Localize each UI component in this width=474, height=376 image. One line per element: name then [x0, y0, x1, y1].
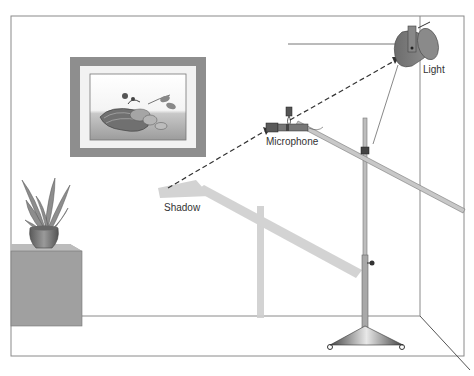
diagram-canvas [0, 0, 474, 376]
pot-icon [30, 226, 59, 249]
boom-stand [296, 65, 465, 350]
framed-picture [70, 57, 206, 157]
light-label: Light [423, 64, 445, 75]
plant-on-cabinet [11, 178, 82, 326]
light [394, 22, 441, 67]
microphone-label: Microphone [266, 136, 318, 147]
plant-leaves-icon [22, 178, 70, 232]
tripod-base-icon [328, 326, 405, 350]
shadow-label: Shadow [164, 202, 200, 213]
shadow [158, 180, 362, 318]
microphone [266, 107, 308, 132]
